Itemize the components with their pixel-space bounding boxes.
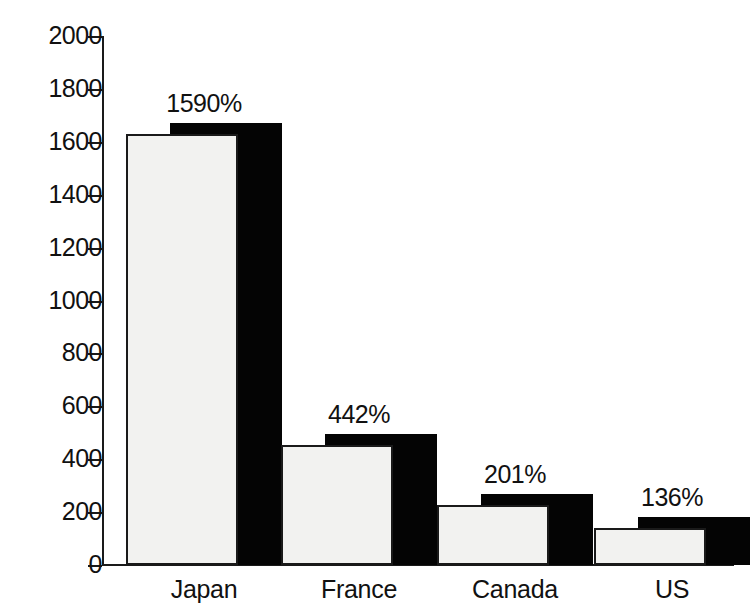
bar-value-label: 136% — [574, 485, 754, 510]
bar-value-label: 201% — [417, 462, 613, 487]
bar-canada[interactable] — [437, 505, 549, 565]
y-axis-tick-label: 200 — [24, 499, 102, 524]
y-axis-line — [102, 36, 104, 566]
y-axis-tick-label: 1800 — [24, 76, 102, 101]
bar-value-label: 1590% — [106, 91, 302, 116]
y-axis-tick-label: 1600 — [24, 129, 102, 154]
bar-japan[interactable] — [126, 134, 238, 565]
y-axis-tick-label: 1400 — [24, 182, 102, 207]
bar-france[interactable] — [281, 445, 393, 565]
y-axis-tick-label: 800 — [24, 340, 102, 365]
y-axis-tick-label: 1000 — [24, 288, 102, 313]
y-axis-tick-label: 2000 — [24, 23, 102, 48]
x-axis-label-us: US — [574, 577, 754, 602]
bar-us[interactable] — [594, 528, 706, 565]
y-axis-tick-label: 600 — [24, 393, 102, 418]
y-axis-tick-label: 400 — [24, 446, 102, 471]
bar-value-label: 442% — [261, 402, 457, 427]
y-axis-tick-label: 0 — [24, 552, 102, 577]
y-axis-tick-label: 1200 — [24, 235, 102, 260]
